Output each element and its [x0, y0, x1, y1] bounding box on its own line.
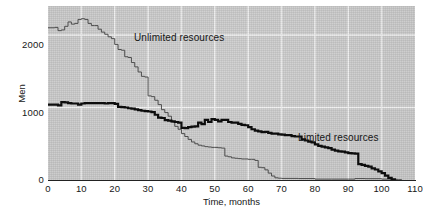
plot-area: Unlimited resources Limited resources — [48, 6, 415, 180]
series-label-unlimited: Unlimited resources — [134, 32, 224, 43]
y-tick-2000: 2000 — [0, 39, 44, 50]
x-axis-line — [48, 180, 416, 181]
y-axis-title: Men — [16, 64, 27, 124]
series-path-unlimited-resources — [48, 19, 402, 180]
x-axis-title: Time, months — [48, 196, 415, 207]
x-tick-110: 110 — [395, 183, 435, 194]
data-series-layer — [48, 6, 415, 180]
series-label-limited: Limited resources — [298, 132, 379, 143]
chart-figure: 2000 1000 0 Men Unlimited resources Limi… — [0, 0, 435, 222]
